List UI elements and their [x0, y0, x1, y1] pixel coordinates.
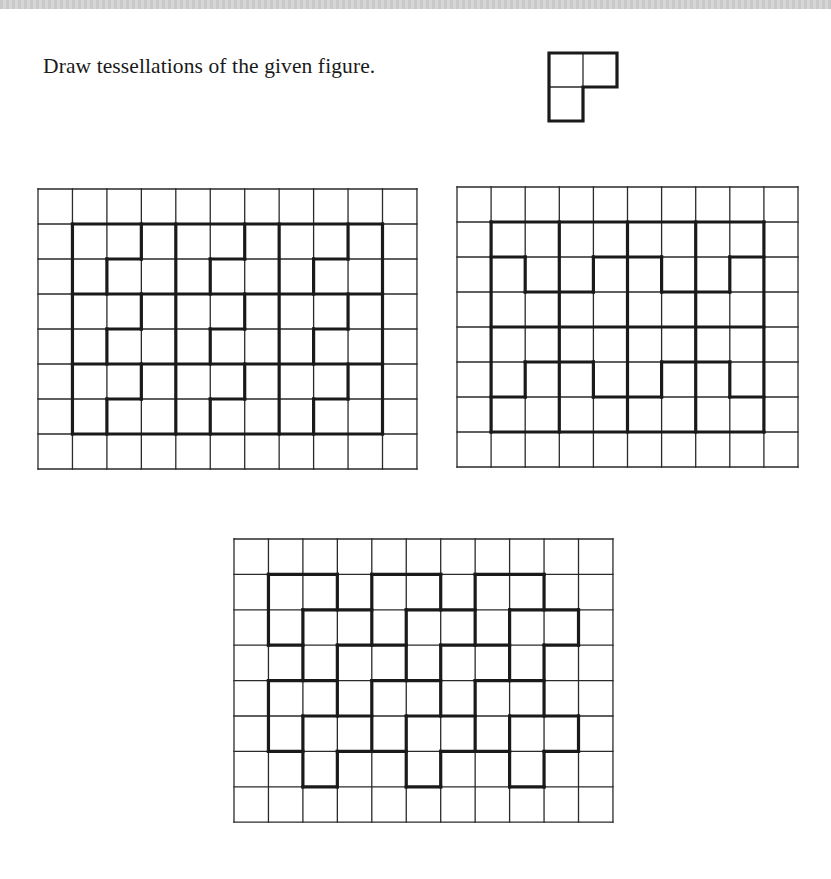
tessellation-grid-3 [0, 0, 831, 879]
